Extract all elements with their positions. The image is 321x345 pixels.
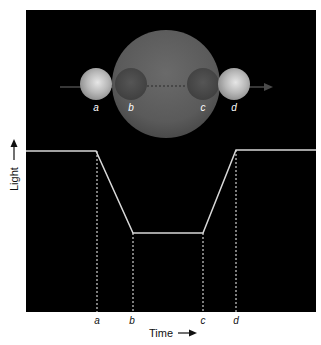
transit-diagram: a b c d a b c d Time Light [0,0,321,345]
arrow-up-icon [11,139,18,147]
svg-text:Light: Light [8,167,20,191]
planet-label-a: a [93,102,99,113]
planet-label-c: c [201,102,206,113]
planet-label-b: b [128,102,134,113]
planet-b [115,68,147,100]
planet-d [218,68,250,100]
svg-text:Time: Time [149,327,173,339]
planet-c [187,68,219,100]
planet-a [80,68,112,100]
marker-label-c: c [201,315,206,326]
arrow-right-icon [189,330,197,337]
x-axis-label: Time [149,327,197,339]
marker-label-a: a [94,315,100,326]
y-axis-label: Light [8,139,20,191]
planet-label-d: d [231,102,237,113]
marker-label-b: b [129,315,135,326]
marker-label-d: d [233,315,239,326]
